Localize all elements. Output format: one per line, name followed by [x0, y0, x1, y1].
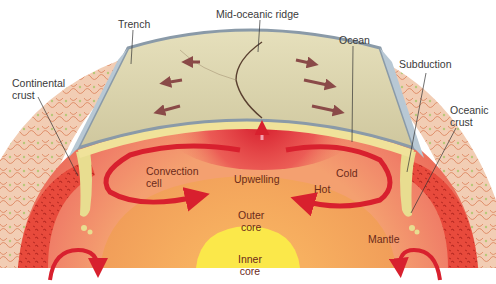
slab-fragment — [415, 230, 420, 235]
label-inner-core: Inner core — [238, 253, 262, 277]
label-outer-core: Outer core — [238, 209, 264, 233]
label-subduction: Subduction — [399, 58, 452, 70]
label-ocean: Ocean — [339, 34, 370, 46]
slab-fragment — [88, 230, 93, 235]
label-hot: Hot — [314, 183, 330, 195]
slab-fragment — [81, 225, 87, 231]
label-continental-crust: Continental crust — [12, 77, 65, 101]
plate-tectonics-diagram — [0, 0, 496, 284]
label-trench: Trench — [118, 18, 150, 30]
label-mid-oceanic-ridge: Mid-oceanic ridge — [216, 8, 299, 20]
label-cold: Cold — [336, 167, 358, 179]
label-mantle: Mantle — [368, 233, 400, 245]
label-convection-cell: Convection cell — [146, 165, 199, 189]
slab-fragment — [409, 225, 415, 231]
label-upwelling: Upwelling — [234, 173, 280, 185]
label-oceanic-crust: Oceanic crust — [450, 104, 489, 128]
